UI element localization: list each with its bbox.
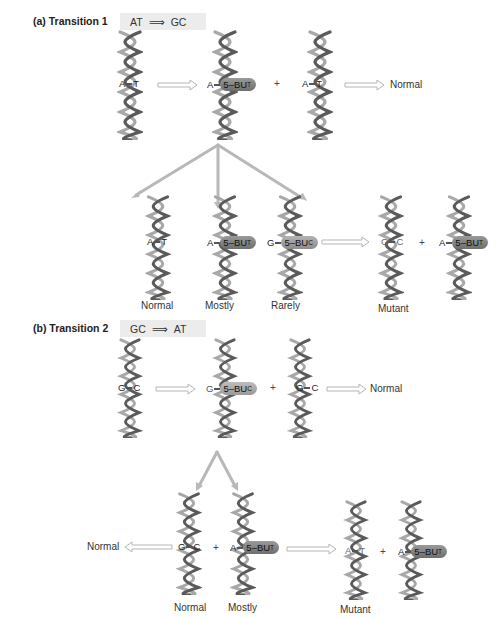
base-pair-a3: AT <box>302 78 322 89</box>
base-pair-b5: A5–BUT <box>230 541 279 554</box>
transition-from: AT <box>130 16 143 28</box>
analog-subscript: T <box>479 239 483 246</box>
5bu-analog-capsule: 5–BUT <box>452 236 488 249</box>
helix-a7 <box>381 197 400 300</box>
transition-from: GC <box>130 323 146 335</box>
5bu-analog-capsule: 5–BUT <box>243 541 279 554</box>
analog-label: 5–BU <box>223 237 247 248</box>
base-right: C <box>133 382 140 393</box>
arrow-right-icon <box>156 384 366 394</box>
base-left: A <box>230 542 236 553</box>
base-pair-b6: AT <box>345 545 365 556</box>
analog-subscript: T <box>270 544 274 551</box>
base-pair-a7: GC <box>381 236 403 247</box>
panel-a-title: (a) Transition 1 <box>33 15 108 27</box>
bond <box>154 241 160 243</box>
base-left: G <box>118 382 125 393</box>
base-left: A <box>345 545 351 556</box>
bond <box>126 83 132 85</box>
bond <box>304 387 310 389</box>
base-left: G <box>381 236 388 247</box>
base-left: A <box>207 79 213 90</box>
base-pair-b3: GC <box>296 382 318 393</box>
outcome-normal-left: Normal <box>87 541 119 552</box>
5bu-analog-capsule: 5–BUT <box>220 236 256 249</box>
plus-sign: + <box>380 546 386 557</box>
base-pair-b1: GC <box>118 382 140 393</box>
branch-arrows-icon <box>136 145 302 203</box>
analog-label: 5–BU <box>246 542 270 553</box>
transition-to: AT <box>174 323 187 335</box>
panel-a-transition-pill: AT ⟹ GC <box>120 13 206 30</box>
base-right: T <box>161 236 167 247</box>
analog-subscript: T <box>247 81 251 88</box>
panel-b-transition-pill: GC ⟹ AT <box>120 320 206 337</box>
arrow-left-icon <box>125 542 172 552</box>
base-pair-b2: G5–BUC <box>206 382 257 395</box>
panel-b-title: (b) Transition 2 <box>33 322 108 334</box>
label-normal: Normal <box>141 300 173 311</box>
base-pair-b7: A5–BUT <box>398 545 447 558</box>
bond <box>309 83 315 85</box>
analog-label: 5–BU <box>284 237 308 248</box>
base-pair-a2: A5–BUT <box>207 78 256 91</box>
label-mostly: Mostly <box>228 602 257 613</box>
outcome-normal: Normal <box>390 79 422 90</box>
analog-subscript: C <box>308 239 313 246</box>
base-left: G <box>178 541 185 552</box>
analog-label: 5–BU <box>414 546 438 557</box>
5bu-analog-capsule: 5–BUC <box>281 236 317 249</box>
base-pair-a1: AT <box>119 78 139 89</box>
base-right: C <box>193 541 200 552</box>
branch-arrows-icon <box>199 452 235 486</box>
bond <box>186 546 192 548</box>
base-left: A <box>147 236 153 247</box>
analog-subscript: C <box>247 385 252 392</box>
bond <box>352 550 358 552</box>
base-left: G <box>267 237 274 248</box>
arrow-right-icon <box>322 237 369 247</box>
base-right: C <box>396 236 403 247</box>
base-left: G <box>206 383 213 394</box>
bond <box>126 387 132 389</box>
transition-to: GC <box>171 16 187 28</box>
double-arrow-icon: ⟹ <box>152 323 168 335</box>
analog-subscript: T <box>247 239 251 246</box>
label-normal: Normal <box>174 602 206 613</box>
diagram-graphics <box>0 0 497 618</box>
analog-label: 5–BU <box>223 79 247 90</box>
plus-sign: + <box>270 382 276 393</box>
base-left: G <box>296 382 303 393</box>
plus-sign: + <box>274 78 280 89</box>
base-right: T <box>359 545 365 556</box>
arrow-right-icon <box>158 80 384 90</box>
helix-a4 <box>148 197 167 300</box>
arrow-right-icon <box>287 544 336 554</box>
5bu-analog-capsule: 5–BUT <box>411 545 447 558</box>
base-pair-a5: A5–BUT <box>207 236 256 249</box>
plus-sign: + <box>419 237 425 248</box>
base-pair-a4: AT <box>147 236 167 247</box>
5bu-analog-capsule: 5–BUT <box>220 78 256 91</box>
base-left: A <box>119 78 125 89</box>
bond <box>389 241 395 243</box>
analog-label: 5–BU <box>223 383 247 394</box>
base-left: A <box>398 546 404 557</box>
base-left: A <box>439 237 445 248</box>
analog-label: 5–BU <box>455 237 479 248</box>
double-arrow-icon: ⟹ <box>149 16 165 28</box>
outcome-normal: Normal <box>370 383 402 394</box>
base-left: A <box>302 78 308 89</box>
label-mostly: Mostly <box>205 300 234 311</box>
base-left: A <box>207 237 213 248</box>
branch-arrowheads-icon <box>196 482 238 491</box>
base-pair-b4: GC <box>178 541 200 552</box>
base-pair-a8: A5–BUT <box>439 236 488 249</box>
label-mutant: Mutant <box>340 604 371 615</box>
plus-sign: + <box>213 542 219 553</box>
base-pair-a6: G5–BUC <box>267 236 318 249</box>
base-right: C <box>311 382 318 393</box>
analog-subscript: T <box>438 548 442 555</box>
base-right: T <box>133 78 139 89</box>
5bu-analog-capsule: 5–BUC <box>220 382 256 395</box>
